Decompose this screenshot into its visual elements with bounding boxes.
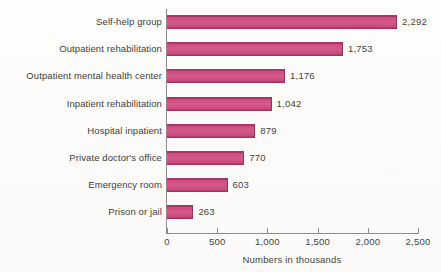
category-label: Prison or jail	[108, 205, 162, 219]
bar-value-label: 263	[198, 205, 214, 219]
x-tick-mark	[418, 228, 419, 234]
bar-chart-figure: Self-help group2,292Outpatient rehabilit…	[0, 0, 441, 272]
x-tick-label: 500	[209, 236, 225, 247]
bar	[167, 205, 193, 219]
bar	[167, 15, 397, 29]
x-tick-mark	[217, 228, 218, 234]
plot-area: Self-help group2,292Outpatient rehabilit…	[0, 0, 441, 272]
bar-row: Outpatient mental health center1,176	[0, 69, 441, 83]
bar-row: Inpatient rehabilitation1,042	[0, 97, 441, 111]
x-tick-mark	[267, 228, 268, 234]
category-label: Private doctor's office	[69, 151, 162, 165]
bar-row: Prison or jail263	[0, 205, 441, 219]
bar	[167, 42, 343, 56]
category-label: Outpatient mental health center	[26, 69, 162, 83]
category-label: Outpatient rehabilitation	[59, 42, 162, 56]
x-tick-label: 1,500	[305, 236, 330, 247]
bar-value-label: 879	[260, 124, 276, 138]
bar-row: Outpatient rehabilitation1,753	[0, 42, 441, 56]
x-tick-label: 2,500	[406, 236, 431, 247]
x-tick-label: 0	[164, 236, 169, 247]
bar-value-label: 770	[249, 151, 265, 165]
bar	[167, 69, 285, 83]
category-label: Hospital inpatient	[87, 124, 162, 138]
bar-value-label: 1,042	[277, 97, 302, 111]
bar-row: Hospital inpatient879	[0, 124, 441, 138]
bar-row: Self-help group2,292	[0, 15, 441, 29]
x-tick-label: 2,000	[355, 236, 380, 247]
category-label: Emergency room	[88, 178, 162, 192]
bar	[167, 97, 272, 111]
bar-value-label: 2,292	[402, 15, 427, 29]
bar-row: Private doctor's office770	[0, 151, 441, 165]
x-tick-mark	[167, 228, 168, 234]
x-tick-mark	[368, 228, 369, 234]
x-axis-title: Numbers in thousands	[166, 254, 418, 265]
bar	[167, 124, 255, 138]
bar-value-label: 1,753	[348, 42, 373, 56]
bar-row: Emergency room603	[0, 178, 441, 192]
category-label: Self-help group	[96, 15, 162, 29]
bar-value-label: 603	[233, 178, 249, 192]
bar-value-label: 1,176	[290, 69, 315, 83]
category-label: Inpatient rehabilitation	[67, 97, 162, 111]
bar	[167, 151, 244, 165]
y-axis-line	[166, 9, 167, 234]
x-axis-line	[166, 233, 418, 234]
bar	[167, 178, 228, 192]
x-tick-mark	[318, 228, 319, 234]
x-tick-label: 1,000	[255, 236, 280, 247]
